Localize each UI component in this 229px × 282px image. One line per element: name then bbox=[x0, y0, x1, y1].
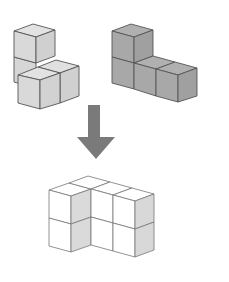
piece-b-dark-gray bbox=[112, 24, 197, 102]
arrow-down-icon bbox=[77, 105, 115, 159]
piece-a-light-gray bbox=[14, 24, 79, 109]
puzzle-diagram bbox=[0, 0, 229, 282]
combined-shape bbox=[49, 176, 154, 257]
